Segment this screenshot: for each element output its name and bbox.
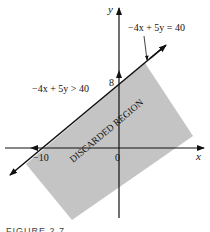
x-axis-small-arrow-icon (30, 145, 38, 151)
equation-label: −4x + 5y = 40 (128, 22, 185, 33)
inequality-label: −4x + 5y > 40 (32, 83, 89, 94)
y-axis-small-arrow-icon (116, 70, 122, 78)
figure-caption: FIGURE 2.7 (6, 226, 65, 232)
inequality-graph: y x 0 −10 8 −4x + 5y = 40 −4x + 5y > 40 … (0, 0, 210, 232)
y-tick-label: 8 (109, 77, 114, 88)
origin-label: 0 (115, 152, 120, 163)
y-axis-label: y (107, 3, 113, 15)
x-axis-label: x (195, 150, 201, 162)
boundary-line-upper-arrow (150, 45, 166, 58)
x-tick-label: −10 (33, 152, 49, 163)
